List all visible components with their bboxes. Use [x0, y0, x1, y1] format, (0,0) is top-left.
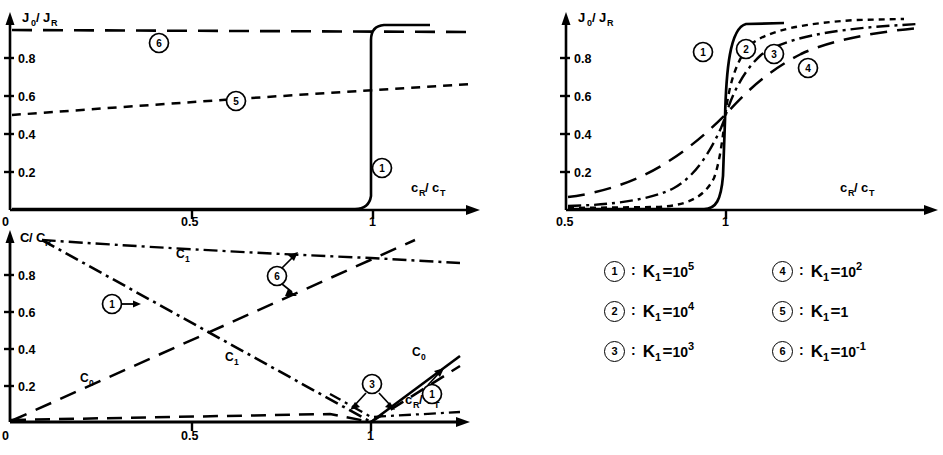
legend: 1 : K1 =105 4 : K1 =102 2 : K1 =104 5 : … [604, 252, 943, 372]
legend-colon-5: : [798, 302, 806, 322]
xaxis-title-top-right: c R / c T [840, 180, 875, 198]
badge-1-top-right: 1 [694, 43, 713, 62]
axes-top-left [4, 12, 480, 219]
xtick-1-top-right: 1 [722, 215, 729, 228]
label-C1-upper-sub: 1 [185, 254, 190, 264]
legend-sub-2: 1 [655, 312, 661, 324]
legend-sub-3: 1 [655, 352, 661, 364]
panel-bottom-left: C / C R c R / c T 0.2 0.4 0.6 0.8 0 0.5 … [0, 226, 490, 455]
legend-eqsign-6: = [831, 342, 841, 361]
legend-colon-4: : [798, 262, 806, 282]
xaxis-slash: / [425, 180, 429, 195]
chart-top-right: J 0 / J R c R / c T 0.2 0.4 0.6 0.8 0.5 … [556, 0, 943, 228]
badge-3-bottom-left: 3 [350, 375, 395, 411]
label-C1-falling-C: C [225, 350, 234, 364]
badge-1-label-bl: 1 [109, 299, 115, 310]
legend-exp-4: 2 [856, 260, 862, 272]
xtick-0.5-bottom-left: 0.5 [181, 429, 198, 443]
yaxis-JR: J [43, 10, 50, 25]
legend-item-4: 4 : K1 =102 [772, 260, 940, 283]
legend-badge-2: 2 [604, 301, 625, 322]
ytick-0.6-top-left: 0.6 [18, 90, 35, 104]
label-C1-upper-C: C [176, 247, 185, 261]
legend-sub-4: 1 [823, 272, 829, 284]
xtick-0.5-top-right: 0.5 [556, 215, 573, 228]
ytick-0.8-bottom-left: 0.8 [18, 269, 35, 283]
legend-symbol-2: K [643, 302, 655, 321]
label-C0-right: C 0 [412, 345, 426, 362]
chart-top-left: J 0 / J R c R / c T 0.2 0.4 0.6 0.8 0 0.… [0, 0, 490, 228]
ytick-0.4-top-left: 0.4 [18, 128, 35, 142]
badge-6-label: 6 [156, 38, 162, 49]
panel-top-right: J 0 / J R c R / c T 0.2 0.4 0.6 0.8 0.5 … [556, 0, 943, 228]
legend-exp-6: -1 [856, 340, 866, 352]
legend-sub-1: 1 [655, 272, 661, 284]
legend-badge-6: 6 [772, 341, 793, 362]
curve-1-top-left [12, 25, 430, 209]
badge-1-bottom-left: 1 [103, 295, 142, 314]
curve-C0-solid-bottom-left [371, 356, 460, 422]
legend-colon-1: : [630, 262, 638, 282]
yaxis-title-top-right: J 0 / J R [578, 10, 614, 28]
ytick-0.8-top-left: 0.8 [18, 52, 35, 66]
legend-symbol-6: K [811, 342, 823, 361]
label-C0-left-sub: 0 [89, 378, 94, 388]
chart-bottom-left: C / C R c R / c T 0.2 0.4 0.6 0.8 0 0.5 … [0, 226, 490, 455]
label-C0-left: C 0 [80, 371, 94, 388]
legend-item-5: 5 : K1 =1 [772, 300, 940, 323]
label-C1-falling: C 1 [225, 350, 239, 367]
panel-top-left: J 0 / J R c R / c T 0.2 0.4 0.6 0.8 0 0.… [0, 0, 490, 228]
legend-eqsign-5: = [831, 302, 841, 321]
legend-eqsign-2: = [663, 302, 673, 321]
legend-base-3: 10 [672, 344, 688, 360]
badge-6-label-bl: 6 [274, 271, 280, 282]
legend-base-6: 10 [840, 344, 856, 360]
legend-item-6: 6 : K1 =10-1 [772, 340, 940, 363]
legend-exp-1: 5 [688, 260, 694, 272]
legend-expr-2: K1 =104 [643, 300, 694, 323]
legend-symbol-5: K [811, 302, 823, 321]
legend-eqsign-4: = [831, 262, 841, 281]
legend-sub-6: 1 [823, 352, 829, 364]
badge-3-label-tr: 3 [771, 49, 777, 60]
label-C0-right-sub: 0 [421, 352, 426, 362]
badge-4-top-right: 4 [799, 59, 818, 78]
legend-base-2: 10 [672, 304, 688, 320]
yaxis-J: J [22, 10, 29, 25]
figure-root: J 0 / J R c R / c T 0.2 0.4 0.6 0.8 0 0.… [0, 0, 943, 455]
xaxis-cT: c [432, 180, 439, 195]
yaxis-JR-tr: J [599, 10, 606, 25]
xaxis-slash-tr: / [854, 180, 858, 195]
badge-6-bottom-left: 6 [268, 252, 299, 296]
ytick-0.4-top-right: 0.4 [574, 128, 591, 142]
ytick-0.2-top-right: 0.2 [574, 166, 591, 180]
yaxis-title-top-left: J 0 / J R [22, 10, 58, 28]
curve-6-top-left [12, 30, 470, 32]
badge-1-right-bottom-left: 1 [423, 368, 445, 404]
legend-exp-3: 3 [688, 340, 694, 352]
legend-base-4: 10 [840, 264, 856, 280]
badge-3-label-bl: 3 [369, 379, 375, 390]
legend-base-1: 10 [672, 264, 688, 280]
legend-expr-1: K1 =105 [643, 260, 694, 283]
legend-base-5: 1 [840, 304, 848, 320]
legend-expr-6: K1 =10-1 [811, 340, 866, 363]
label-C1-falling-sub: 1 [234, 357, 239, 367]
ytick-0.8-top-right: 0.8 [574, 52, 591, 66]
legend-item-2: 2 : K1 =104 [604, 300, 772, 323]
xtick-1-bottom-left: 1 [367, 429, 374, 443]
legend-badge-1: 1 [604, 261, 625, 282]
xaxis-cT-tr: c [861, 180, 868, 195]
legend-colon-6: : [798, 342, 806, 362]
legend-badge-5: 5 [772, 301, 793, 322]
legend-exp-2: 4 [688, 300, 694, 312]
legend-symbol-1: K [643, 262, 655, 281]
badge-2-label-tr: 2 [743, 44, 749, 55]
yaxis-JR-sub: R [51, 18, 58, 28]
legend-badge-4: 4 [772, 261, 793, 282]
legend-badge-3: 3 [604, 341, 625, 362]
yaxis-slash-bl: / [29, 230, 33, 245]
yaxis-JR-sub-tr: R [607, 18, 614, 28]
legend-colon-3: : [630, 342, 638, 362]
ytick-0.2-bottom-left: 0.2 [18, 380, 35, 394]
